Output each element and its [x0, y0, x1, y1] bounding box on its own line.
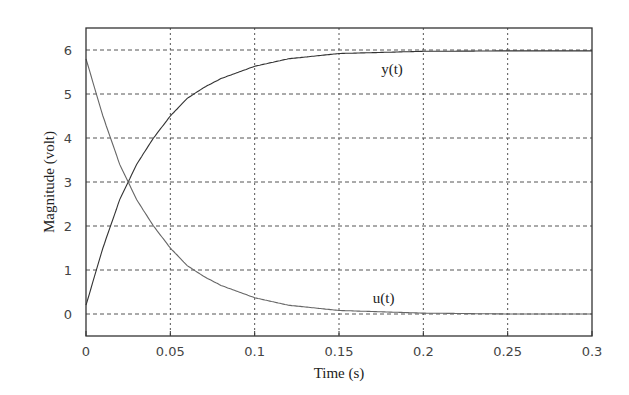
y-tick-label: 3 — [64, 175, 72, 190]
series-ut-line — [86, 59, 592, 314]
x-tick-label: 0.2 — [413, 344, 434, 359]
y-tick-label: 6 — [64, 43, 72, 58]
grid-lines — [86, 28, 592, 336]
x-tick-label: 0.15 — [325, 344, 354, 359]
y-tick-label: 0 — [64, 307, 72, 322]
x-tick-label: 0.25 — [493, 344, 522, 359]
y-tick-label: 2 — [64, 219, 72, 234]
x-tick-label: 0.3 — [582, 344, 603, 359]
y-tick-label: 5 — [64, 87, 72, 102]
curve-label-yt: y(t) — [381, 61, 403, 78]
x-axis-title: Time (s) — [314, 365, 365, 382]
line-chart: 00.050.10.150.20.250.30123456 Time (s) M… — [0, 0, 629, 395]
x-tick-label: 0.1 — [244, 344, 265, 359]
x-tick-label: 0 — [82, 344, 90, 359]
curve-label-ut: u(t) — [373, 290, 395, 307]
tick-labels: 00.050.10.150.20.250.30123456 — [64, 43, 602, 359]
y-axis-title: Magnitude (volt) — [41, 131, 58, 233]
y-tick-label: 1 — [64, 263, 72, 278]
x-tick-label: 0.05 — [156, 344, 185, 359]
y-tick-label: 4 — [64, 131, 72, 146]
